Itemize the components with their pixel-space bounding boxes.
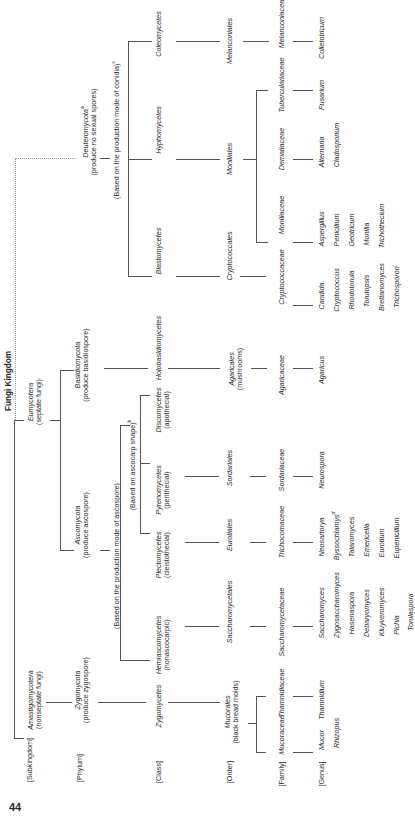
eumycotera-bracket — [60, 370, 61, 550]
genus-trichothecium: Trichothecium — [378, 204, 386, 249]
genus-cladosporium: Cladosporium — [333, 123, 341, 167]
genus-zygosaccharomyces: Zygosaccharomyces — [333, 572, 341, 638]
class-coleomycetes: Coleomycetes — [155, 11, 163, 57]
order-moniliales: Moniliales — [226, 143, 234, 175]
phylum-ascomycota: Ascomycota (produce ascospore) — [74, 480, 91, 570]
subkingdom-eumycotera: Eumycotera (septate fungi) — [27, 367, 44, 437]
genus-hasenaspora: Hasenaspora — [348, 592, 356, 635]
family-thamnidiaceae: Thamnidiaceae — [278, 668, 286, 717]
ascospore-bracket — [120, 425, 121, 660]
criterion-conidia: (Based on the production mode of conidia… — [113, 25, 121, 235]
phylum-deuteromycota: Deuteromycotaa (produce no sexual spores… — [82, 77, 99, 187]
class-hyphomycetes: Hyphomycetes — [155, 106, 163, 154]
subkingdom-amastigomycotera: Amastigomycotera (nonseptate fungi) — [27, 645, 44, 755]
family-sordariaceae: Sordariaceae — [278, 449, 286, 492]
rank-label-class: [Class] — [155, 761, 163, 783]
kingdom-title: Fungi Kingdom — [5, 351, 13, 411]
family-dematiaceae: Dematiaceae — [278, 128, 286, 170]
order-mucorales: Mucorales (black bread molds) — [224, 672, 241, 752]
family-trichocomaceae: Trichocomaceae — [278, 506, 286, 559]
class-holobasidiomycetes: Holobasidiomycetes — [155, 316, 163, 380]
family-saccharomycetaceae: Saccharomycetaceae — [278, 587, 286, 656]
genus-geotricum: Geotricum — [348, 213, 356, 246]
genus-brettanomyces: Brettanomyces — [378, 263, 386, 311]
genus-alternaria: Alternaria — [318, 137, 326, 168]
order-cryptococcales: Cryptococcales — [226, 231, 234, 280]
genus-eurotium: Eurotium — [378, 529, 386, 558]
deuteromycota-dotted-link — [15, 158, 16, 420]
class-pyrenomycetes: Pyrenomycetes (perithecial) — [155, 450, 172, 530]
class-blastomycetes: Blastomycetes — [155, 228, 163, 275]
phylum-basidiomycota: Basidiomycota (produce basidiospore) — [74, 310, 91, 420]
genus-colletotricum: Colletotricum — [318, 17, 326, 59]
family-melanconiaceae: Melanconiaceae — [278, 0, 286, 48]
genus-neosartorya: Neosartorya — [318, 517, 326, 556]
genus-torulopsis: Torulopsis — [363, 275, 371, 308]
genus-saccharomyces: Saccharomyces — [318, 587, 326, 638]
family-agaricaceae: Agaricaceae — [278, 355, 286, 395]
family-moniliaceae: Moniliaceae — [278, 196, 286, 234]
phylum-zygomycota: Zygomycota (produce zygospore) — [74, 640, 91, 740]
rank-label-order: [Order] — [226, 761, 234, 783]
class-zygomycetes: Zygomycetes — [155, 685, 163, 728]
order-agaricales: Agaricales (mushrooms) — [228, 334, 245, 404]
genus-emericella: Emericella — [363, 523, 371, 557]
page-number: 44 — [9, 801, 21, 813]
ascocarp-bracket — [140, 395, 141, 533]
order-melanconiales: Melanconiales — [226, 18, 234, 64]
class-hemiascomycetes: Hemiascomycetes (nonascocarpic) — [155, 605, 172, 685]
family-mucoraceae: Mucoraceae — [278, 715, 286, 755]
order-eurotiales: Eurotiales — [226, 519, 234, 551]
kingdom-bracket — [14, 420, 15, 738]
genus-eupenicillum: Eupenicillum — [393, 518, 401, 559]
genus-pichia: Pichia — [393, 615, 401, 635]
genus-trichosporon: Trichosporon — [393, 266, 401, 307]
genus-talaromyces: Talaromyces — [348, 517, 356, 557]
order-saccharomycetales: Saccharomycetales — [226, 581, 234, 644]
genus-kluyveromyces: Kluyveromyces — [378, 588, 386, 637]
family-tuberculariaceae: Tuberculariaceae — [278, 57, 286, 112]
mucorales-bracket — [256, 696, 257, 752]
class-discomycetes: Discomycetes (apothecial) — [155, 370, 172, 450]
genus-mucor: Mucor — [318, 730, 326, 750]
genus-cryptococcus: Cryptococcus — [333, 268, 341, 312]
genus-rhodotorula: Rhodotorula — [348, 270, 356, 309]
genus-thamnidium: Thamnidium — [318, 680, 326, 720]
rank-label-genus: [Genus] — [318, 761, 326, 786]
genus-monilia: Monilia — [363, 223, 371, 246]
genus-torulaspora: Torulaspora — [407, 593, 415, 631]
genus-aspergillus: Aspergillus — [318, 211, 326, 246]
genus-byssochlamys: Byssochlamysd — [333, 512, 341, 561]
rank-label-phylum: [Phylum] — [76, 754, 84, 782]
genus-fusarium: Fusarium — [318, 80, 326, 110]
genus-rhizopus: Rhizopus — [333, 718, 341, 748]
order-sordariales: Sordariales — [226, 450, 234, 486]
family-cryptococcaceae: Cryptococcaceae — [278, 249, 286, 305]
genus-agaricus: Agaricus — [318, 356, 326, 384]
genus-penicilium: Penicilium — [333, 214, 341, 247]
criterion-ascocarp: (Based on ascocarp shape)b — [129, 405, 137, 525]
rank-label-family: [Family] — [278, 761, 286, 786]
genus-neurospora: Neurospora — [318, 451, 326, 489]
genus-debaryomyces: Debaryomyces — [363, 589, 371, 637]
moniliales-bracket — [256, 90, 257, 242]
genus-candida: Candida — [318, 283, 326, 310]
